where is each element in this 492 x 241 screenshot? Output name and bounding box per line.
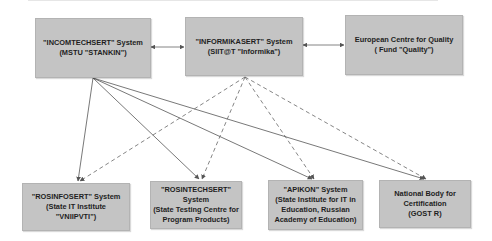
node-informikasert: "INFORMIKASERT" System (SIIT@T "Informik… — [185, 17, 303, 76]
node-subtitle: (State Institute for IT in — [275, 195, 355, 205]
node-rosinfosert: "ROSINFOSERT" System (State IT Institute… — [22, 183, 130, 231]
node-subtitle: Education, Russian — [281, 205, 350, 215]
dashed-edge-to-rosintechsert — [202, 77, 245, 179]
solid-edge-to-rosintechsert — [93, 78, 199, 179]
node-title: "INFORMIKASERT" System — [196, 37, 293, 47]
node-rosintechsert: "ROSINTECHSERT" System (State Testing Ce… — [150, 181, 242, 229]
node-title: "ROSINTECHSERT" System — [151, 185, 241, 205]
node-subtitle: Academy of Education) — [274, 215, 356, 225]
node-subtitle: Certification — [403, 199, 446, 209]
node-title: "APIKON" System — [283, 185, 347, 195]
dashed-edge-to-gost — [245, 77, 426, 179]
solid-edge-to-gost — [93, 78, 424, 179]
node-european-centre-quality: European Centre for Quality ( Fund "Qual… — [345, 15, 463, 75]
node-title: National Body for — [394, 189, 456, 199]
node-subtitle: (GOST R) — [408, 209, 441, 219]
node-title: "INCOMTECHSERT" System — [43, 38, 143, 48]
node-subtitle: ( Fund "Quality") — [374, 45, 433, 55]
node-subtitle: "VNIIPVTI") — [56, 212, 96, 222]
node-incomtechsert: "INCOMTECHSERT" System (MSTU "STANKIN") — [35, 18, 151, 78]
node-subtitle: (MSTU "STANKIN") — [59, 48, 126, 58]
dashed-edge-to-rosinfosert — [80, 77, 245, 181]
node-subtitle: (SIIT@T "Informika") — [208, 47, 281, 57]
node-gost-r: National Body for Certification (GOST R) — [379, 180, 471, 228]
node-title: "ROSINFOSERT" System — [32, 192, 121, 202]
solid-edge-to-apikon — [93, 78, 312, 179]
node-title: European Centre for Quality — [355, 35, 454, 45]
solid-edge-to-rosinfosert — [78, 78, 93, 181]
node-apikon: "APIKON" System (State Institute for IT … — [268, 180, 363, 230]
node-subtitle: Program Products) — [163, 215, 230, 225]
node-subtitle: (State Testing Centre for — [153, 205, 239, 215]
node-subtitle: (State IT Institute — [46, 202, 106, 212]
